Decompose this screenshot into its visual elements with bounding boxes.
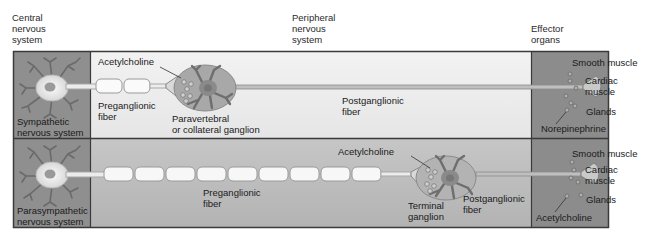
label-line: Terminal xyxy=(408,200,444,211)
para-glands-label: Glands xyxy=(586,194,616,205)
para-ganglion-label: Terminal ganglion xyxy=(408,200,444,222)
para-acetylcholine-effector-label: Acetylcholine xyxy=(536,212,592,223)
label-line: fiber xyxy=(98,111,156,122)
para-cardiac-muscle-label: Cardiac muscle xyxy=(585,164,618,186)
label-line: fiber xyxy=(463,204,525,215)
label-line: ganglion xyxy=(408,211,444,222)
label-line: nervous system xyxy=(17,216,88,227)
label-line: Postganglionic xyxy=(342,95,404,106)
symp-acetylcholine-label: Acetylcholine xyxy=(98,56,154,67)
para-system-label: Parasympathetic nervous system xyxy=(17,205,88,227)
label-line: or collateral ganglion xyxy=(172,124,260,135)
para-postganglionic-axon xyxy=(476,172,581,176)
symp-cardiac-muscle-label: Cardiac muscle xyxy=(585,75,618,97)
para-smooth-muscle-label: Smooth muscle xyxy=(572,148,637,159)
symp-postganglionic-axon xyxy=(236,85,583,89)
label-line: fiber xyxy=(342,106,404,117)
label-line: fiber xyxy=(203,198,261,209)
label-line: muscle xyxy=(585,86,618,97)
symp-ganglion-label: Paravertebral or collateral ganglion xyxy=(172,113,260,135)
symp-glands-label: Glands xyxy=(586,106,616,117)
label-line: Parasympathetic xyxy=(17,205,88,216)
label-line: Postganglionic xyxy=(463,193,525,204)
label-line: Preganglionic xyxy=(98,100,156,111)
symp-system-label: Sympathetic nervous system xyxy=(17,116,84,138)
symp-norepinephrine-label: Norepinephrine xyxy=(541,123,606,134)
para-preganglionic-label: Preganglionic fiber xyxy=(203,187,261,209)
para-acetylcholine-label: Acetylcholine xyxy=(338,146,394,157)
symp-pns-panel xyxy=(90,52,531,138)
label-line: Cardiac xyxy=(585,75,618,86)
symp-postganglionic-label: Postganglionic fiber xyxy=(342,95,404,117)
para-postganglionic-label: Postganglionic fiber xyxy=(463,193,525,215)
symp-preganglionic-label: Preganglionic fiber xyxy=(98,100,156,122)
label-line: Paravertebral xyxy=(172,113,260,124)
para-nucleus xyxy=(45,170,56,179)
label-line: Sympathetic xyxy=(17,116,84,127)
label-line: Cardiac xyxy=(585,164,618,175)
label-line: nervous system xyxy=(17,127,84,138)
label-line: Preganglionic xyxy=(203,187,261,198)
paravertebral-ganglion-icon xyxy=(174,65,236,111)
symp-nucleus xyxy=(45,83,56,92)
label-line: muscle xyxy=(585,175,618,186)
symp-smooth-muscle-label: Smooth muscle xyxy=(572,57,637,68)
